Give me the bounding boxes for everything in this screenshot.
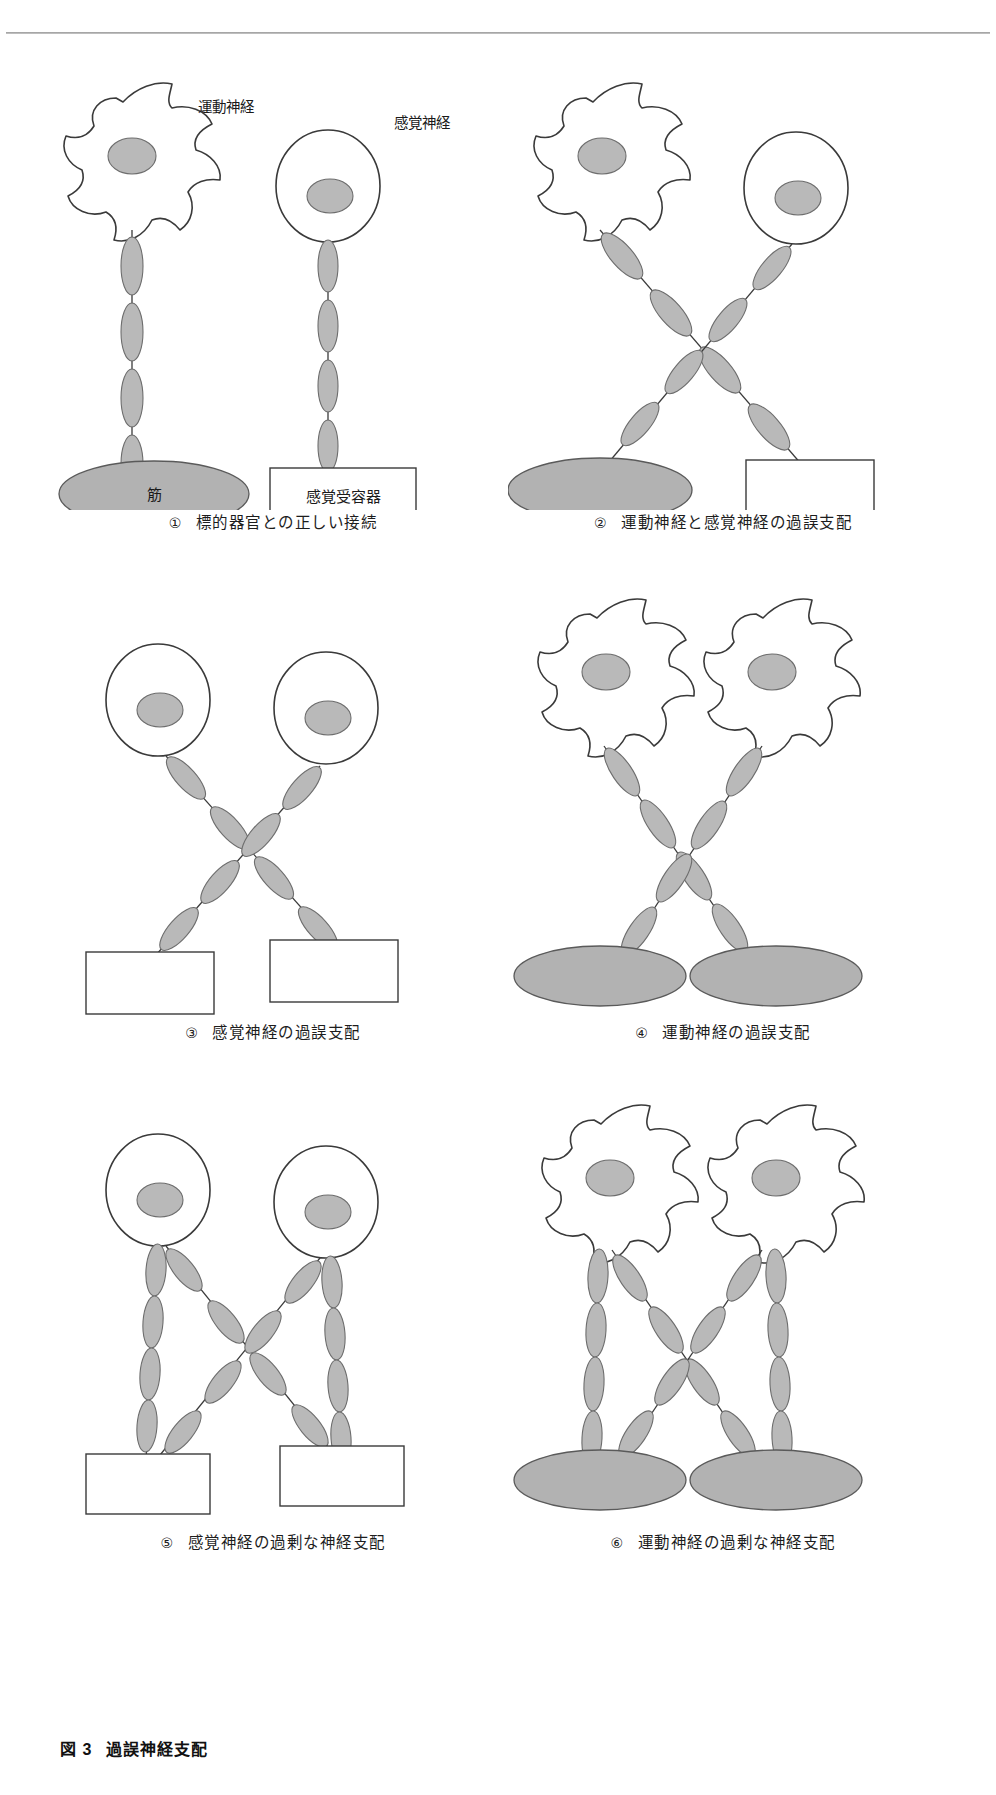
panel-6-caption-text: 運動神経の過剰な神経支配 bbox=[638, 1534, 836, 1551]
panel-6-caption: ⑥運動神経の過剰な神経支配 bbox=[508, 1530, 938, 1552]
receptor-target bbox=[746, 460, 874, 510]
figure-page: 筋 運動神経 感覚 bbox=[0, 0, 996, 1795]
motor-neuron-soma-left bbox=[538, 599, 694, 757]
motor-axon-right-straight bbox=[765, 1249, 794, 1476]
muscle-target-right bbox=[690, 946, 862, 1006]
panel-1-caption-text: 標的器官との正しい接続 bbox=[196, 514, 378, 531]
motor-nerve-label: 運動神経 bbox=[198, 99, 255, 115]
muscle-label: 筋 bbox=[147, 486, 162, 503]
receptor-target-right bbox=[270, 940, 398, 1002]
panel-2: ②運動神経と感覚神経の過誤支配 bbox=[508, 70, 938, 570]
receptor-target-left bbox=[86, 952, 214, 1014]
receptor-target-left bbox=[86, 1454, 210, 1514]
motor-neuron-soma bbox=[64, 83, 220, 241]
panel-6: ⑥運動神経の過剰な神経支配 bbox=[508, 1090, 938, 1590]
motor-neuron-soma-right bbox=[704, 599, 860, 757]
sensory-axon bbox=[318, 240, 338, 474]
receptor-target: 感覚受容器 bbox=[270, 468, 416, 510]
muscle-target-left bbox=[514, 1450, 686, 1510]
panel-6-number: ⑥ bbox=[610, 1535, 623, 1551]
muscle-target: 筋 bbox=[59, 461, 249, 510]
motor-neuron-soma-right bbox=[708, 1105, 864, 1263]
sensory-nerve-label: 感覚神経 bbox=[394, 115, 451, 131]
panel-3-number: ③ bbox=[185, 1025, 198, 1041]
panel-2-number: ② bbox=[594, 515, 607, 531]
sensory-axon-right-crossed bbox=[150, 761, 327, 962]
panel-2-caption-text: 運動神経と感覚神経の過誤支配 bbox=[621, 514, 852, 531]
sensory-neuron-soma bbox=[744, 132, 848, 244]
sensory-neuron-soma-right bbox=[274, 1146, 378, 1258]
panel-5: ⑤感覚神経の過剰な神経支配 bbox=[58, 1090, 488, 1590]
panel-1-number: ① bbox=[169, 515, 182, 531]
sensory-neuron-soma bbox=[276, 130, 380, 242]
panel-4-number: ④ bbox=[635, 1025, 648, 1041]
panel-3: ③感覚神経の過誤支配 bbox=[58, 580, 488, 1080]
sensory-neuron-soma-left bbox=[106, 644, 210, 756]
receptor-target-right bbox=[280, 1446, 404, 1506]
sensory-neuron-soma-left bbox=[106, 1134, 210, 1246]
sensory-neuron-soma-right bbox=[274, 652, 378, 764]
sensory-axon-left-straight bbox=[135, 1243, 168, 1460]
panel-2-caption: ②運動神経と感覚神経の過誤支配 bbox=[508, 510, 938, 532]
muscle-target-right bbox=[690, 1450, 862, 1510]
panel-1: 筋 運動神経 感覚 bbox=[58, 70, 488, 570]
panel-4-caption-text: 運動神経の過誤支配 bbox=[662, 1024, 811, 1041]
panel-5-number: ⑤ bbox=[160, 1535, 173, 1551]
muscle-target-left bbox=[514, 946, 686, 1006]
panel-5-caption: ⑤感覚神経の過剰な神経支配 bbox=[58, 1530, 488, 1552]
figure-area: 筋 運動神経 感覚 bbox=[48, 60, 948, 1660]
panel-1-caption: ①標的器官との正しい接続 bbox=[58, 510, 488, 532]
panel-3-caption-text: 感覚神経の過誤支配 bbox=[212, 1024, 361, 1041]
muscle-target bbox=[508, 458, 692, 510]
panel-4-caption: ④運動神経の過誤支配 bbox=[508, 1020, 938, 1042]
motor-neuron-soma bbox=[534, 83, 690, 241]
receptor-label: 感覚受容器 bbox=[306, 488, 381, 505]
figure-title-text: 過誤神経支配 bbox=[106, 1741, 208, 1758]
panel-5-caption-text: 感覚神経の過剰な神経支配 bbox=[188, 1534, 386, 1551]
panel-4: ④運動神経の過誤支配 bbox=[508, 580, 938, 1080]
figure-number: 図 3 bbox=[60, 1741, 92, 1758]
figure-title: 図 3過誤神経支配 bbox=[60, 1736, 208, 1760]
panel-grid: 筋 運動神経 感覚 bbox=[48, 60, 948, 1620]
motor-axon bbox=[121, 230, 143, 493]
panel-3-caption: ③感覚神経の過誤支配 bbox=[58, 1020, 488, 1042]
motor-axon-left-straight bbox=[581, 1249, 610, 1476]
motor-neuron-soma-left bbox=[542, 1105, 698, 1263]
top-divider bbox=[6, 32, 990, 34]
